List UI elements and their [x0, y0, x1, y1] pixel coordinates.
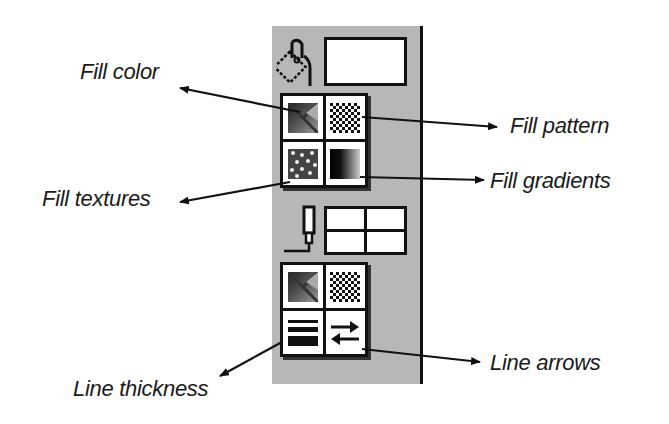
fill-gradients-icon — [330, 149, 360, 179]
line-swatch-cell — [327, 209, 364, 229]
line-pattern-icon — [330, 272, 360, 302]
fill-color-button[interactable] — [283, 96, 323, 139]
line-arrows-button[interactable] — [326, 311, 366, 354]
line-swatch-cell — [367, 232, 404, 252]
pen-icon[interactable] — [282, 205, 322, 259]
fill-pattern-icon — [330, 103, 360, 133]
line-color-button[interactable] — [283, 265, 323, 308]
current-fill-swatch[interactable] — [324, 37, 407, 86]
fill-textures-button[interactable] — [283, 142, 323, 185]
fill-textures-icon — [288, 149, 318, 179]
fill-gradients-label: Fill gradients — [490, 168, 611, 194]
line-pattern-button[interactable] — [326, 265, 366, 308]
line-swatch-cell — [367, 209, 404, 229]
fill-options-grid — [280, 93, 368, 188]
line-thickness-icon — [287, 318, 319, 348]
line-color-icon — [288, 272, 318, 302]
line-arrows-icon — [329, 318, 361, 348]
line-arrows-label: Line arrows — [490, 350, 600, 376]
fill-color-icon — [288, 103, 318, 133]
panel-border — [420, 26, 423, 384]
line-thickness-label: Line thickness — [73, 376, 208, 402]
line-thickness-button[interactable] — [283, 311, 323, 354]
fill-color-label: Fill color — [80, 59, 159, 85]
fill-pattern-label: Fill pattern — [510, 113, 609, 139]
current-line-swatch[interactable] — [324, 206, 407, 255]
fill-gradients-button[interactable] — [326, 142, 366, 185]
line-options-grid — [280, 262, 368, 357]
fill-textures-label: Fill textures — [42, 186, 151, 212]
fill-pattern-button[interactable] — [326, 96, 366, 139]
paint-bucket-icon[interactable] — [276, 38, 318, 94]
line-swatch-cell — [327, 232, 364, 252]
